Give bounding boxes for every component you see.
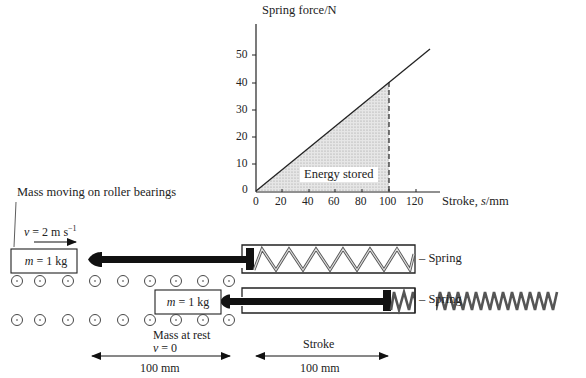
x-tick-120: 120 [406,195,423,207]
piston-head [383,290,391,311]
bottom-spring-assembly [220,288,557,313]
rod-arrowhead [88,252,102,267]
piston-head [246,248,254,270]
piston-rod [100,256,246,263]
x-tick-40: 40 [302,195,314,207]
velocity-label: v = 2 m s−1 [24,224,77,240]
rest-mass-label: m = 1 kg [163,295,213,310]
rest-velocity-label: v = 0 [153,341,177,356]
x-tick-0: 0 [253,195,259,207]
y-tick-0: 0 [242,183,248,195]
y-axis-label: Spring force/N [262,3,337,18]
top-spring-label: – Spring [419,251,462,266]
moving-mass-label: m = 1 kg [21,254,71,269]
top-spring-assembly [88,245,415,273]
stroke-distance-label: 100 mm [300,361,340,376]
x-tick-20: 20 [275,195,287,207]
bottom-spring-label: – Spring [419,292,462,307]
x-axis-label: Stroke, s/mm [442,194,509,209]
y-tick-20: 20 [236,130,248,142]
y-tick-30: 30 [236,103,248,115]
stroke-label: Stroke [303,337,334,352]
left-distance-label: 100 mm [140,361,180,376]
caption-leader-line [14,202,16,247]
y-tick-50: 50 [236,48,248,60]
x-tick-60: 60 [328,195,340,207]
moving-mass-caption: Mass moving on roller bearings [17,185,176,200]
x-tick-80: 80 [355,195,367,207]
x-tick-100: 100 [379,195,396,207]
energy-stored-label: Energy stored [300,167,378,182]
piston-rod [228,298,384,305]
y-tick-40: 40 [236,76,248,88]
y-tick-10: 10 [236,157,248,169]
